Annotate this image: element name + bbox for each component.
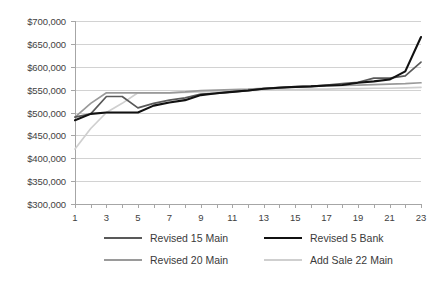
x-axis-tick bbox=[327, 204, 328, 208]
x-axis-tick bbox=[390, 204, 391, 208]
x-axis-tick bbox=[75, 204, 76, 208]
legend-label: Revised 20 Main bbox=[150, 254, 228, 266]
legend-label: Revised 15 Main bbox=[150, 232, 228, 244]
x-axis-tick-label: 15 bbox=[290, 212, 301, 223]
x-axis-tick bbox=[421, 204, 422, 208]
legend-color-swatch bbox=[104, 259, 142, 261]
x-axis-tick-label: 7 bbox=[167, 212, 172, 223]
x-axis-tick bbox=[154, 204, 155, 208]
x-axis-tick-label: 9 bbox=[198, 212, 203, 223]
x-axis-tick bbox=[248, 204, 249, 208]
x-axis-tick bbox=[279, 204, 280, 208]
x-axis-tick bbox=[374, 204, 375, 208]
legend-color-swatch bbox=[264, 259, 302, 261]
series-lines bbox=[75, 21, 421, 204]
x-axis-tick bbox=[217, 204, 218, 208]
y-axis-tick bbox=[71, 21, 75, 22]
y-axis-tick bbox=[71, 158, 75, 159]
x-axis-tick bbox=[232, 204, 233, 208]
legend-item-revised-15-main[interactable]: Revised 15 Main bbox=[104, 232, 228, 244]
x-axis-tick bbox=[122, 204, 123, 208]
x-axis-tick bbox=[342, 204, 343, 208]
y-axis-tick bbox=[71, 44, 75, 45]
y-axis-tick bbox=[71, 181, 75, 182]
x-axis-tick-label: 3 bbox=[104, 212, 109, 223]
x-axis-tick bbox=[185, 204, 186, 208]
y-axis-tick bbox=[71, 90, 75, 91]
plot-wrapper: $700,000$650,000$600,000$550,000$500,000… bbox=[0, 0, 432, 222]
x-axis-tick-label: 23 bbox=[416, 212, 427, 223]
x-axis-tick-label: 19 bbox=[353, 212, 364, 223]
legend-color-swatch bbox=[264, 237, 302, 239]
x-axis-tick-label: 1 bbox=[72, 212, 77, 223]
chart-legend: Revised 15 MainRevised 5 BankRevised 20 … bbox=[0, 228, 432, 284]
legend-item-add-sale-22-main[interactable]: Add Sale 22 Main bbox=[264, 254, 393, 266]
x-axis-tick bbox=[358, 204, 359, 208]
legend-item-revised-20-main[interactable]: Revised 20 Main bbox=[104, 254, 228, 266]
x-axis-tick-label: 21 bbox=[384, 212, 395, 223]
x-axis-tick bbox=[295, 204, 296, 208]
legend-label: Add Sale 22 Main bbox=[310, 254, 393, 266]
legend-color-swatch bbox=[104, 237, 142, 239]
x-axis-tick-label: 11 bbox=[227, 212, 237, 223]
y-axis-tick bbox=[71, 67, 75, 68]
x-axis-tick-label: 5 bbox=[135, 212, 140, 223]
x-axis-tick bbox=[311, 204, 312, 208]
x-axis-tick bbox=[201, 204, 202, 208]
x-axis-tick bbox=[264, 204, 265, 208]
x-axis-tick bbox=[106, 204, 107, 208]
y-axis-tick bbox=[71, 135, 75, 136]
x-axis-tick-label: 13 bbox=[258, 212, 269, 223]
line-chart: $700,000$650,000$600,000$550,000$500,000… bbox=[0, 0, 432, 287]
legend-item-revised-5-bank[interactable]: Revised 5 Bank bbox=[264, 232, 384, 244]
y-axis-tick bbox=[71, 113, 75, 114]
x-axis-tick bbox=[169, 204, 170, 208]
x-axis-tick bbox=[138, 204, 139, 208]
x-axis-tick-label: 17 bbox=[321, 212, 332, 223]
x-axis-tick bbox=[91, 204, 92, 208]
x-axis-tick bbox=[405, 204, 406, 208]
legend-label: Revised 5 Bank bbox=[310, 232, 384, 244]
series-line-add-sale-22-main bbox=[75, 87, 421, 149]
